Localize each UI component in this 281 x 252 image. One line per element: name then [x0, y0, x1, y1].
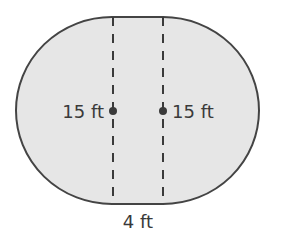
- left-radius-label: 15 ft: [62, 101, 104, 122]
- composite-shape-outline: [16, 17, 259, 204]
- right-center-point: [159, 107, 167, 115]
- composite-figure-diagram: 15 ft 15 ft 4 ft: [0, 0, 281, 252]
- width-label: 4 ft: [123, 211, 153, 232]
- right-radius-label: 15 ft: [172, 101, 214, 122]
- left-center-point: [109, 107, 117, 115]
